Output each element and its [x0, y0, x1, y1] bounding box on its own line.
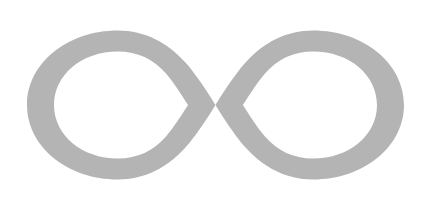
infinity-symbol-icon — [0, 0, 441, 210]
canvas: Infinity symbol — [0, 0, 441, 210]
infinity-symbol-svg — [0, 0, 441, 210]
